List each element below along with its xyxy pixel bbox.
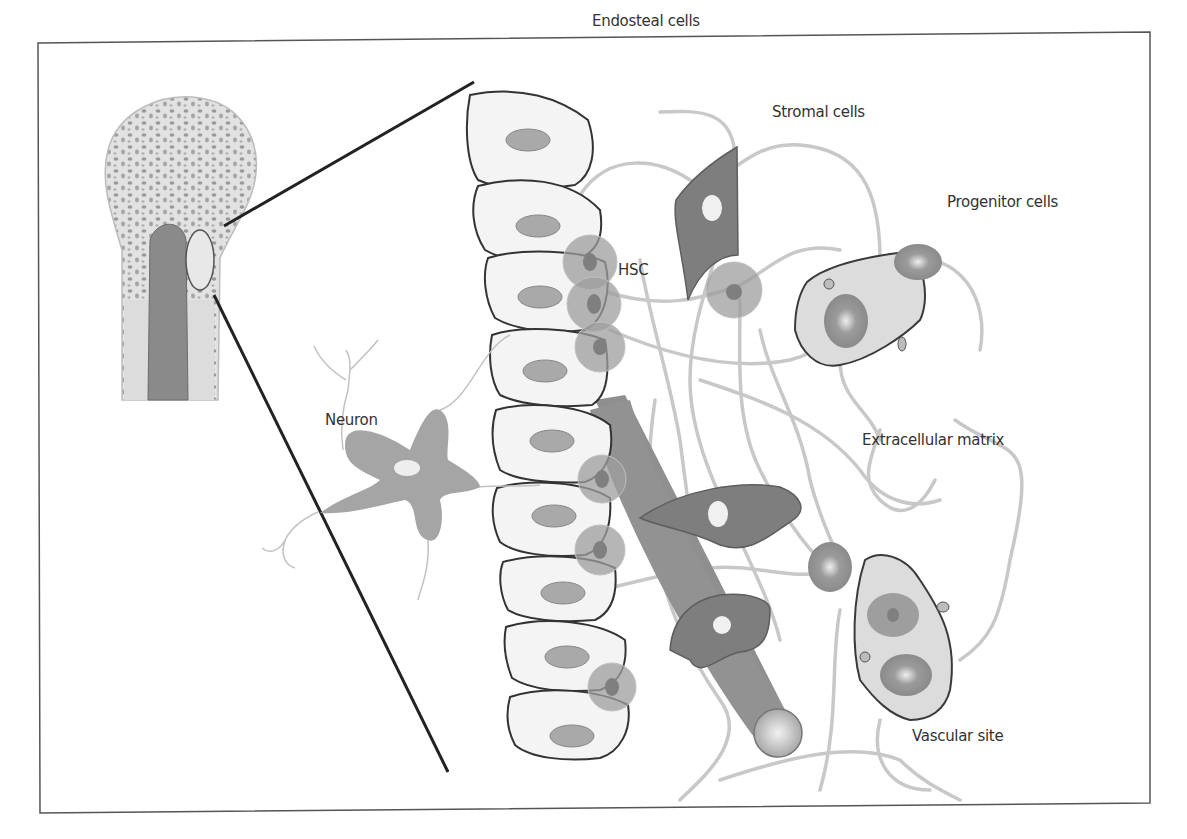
- vascular-site: [808, 542, 952, 720]
- label-stromal-cells: Stromal cells: [772, 103, 865, 121]
- label-progenitor-cells: Progenitor cells: [947, 193, 1058, 211]
- bone-marrow-niche-figure: Endosteal cells Stromal cells Progenitor…: [0, 0, 1187, 839]
- zoom-line-bottom: [214, 295, 448, 772]
- label-extracellular-matrix: Extracellular matrix: [862, 431, 1004, 449]
- bone-illustration: [105, 97, 256, 400]
- label-vascular-site: Vascular site: [912, 727, 1003, 745]
- label-neuron: Neuron: [325, 411, 378, 429]
- zoom-region-ellipse: [186, 230, 214, 290]
- label-hsc: HSC: [618, 261, 648, 279]
- zoom-line-top: [224, 82, 474, 226]
- progenitor-niche: [795, 244, 942, 366]
- label-endosteal-cells: Endosteal cells: [592, 12, 700, 30]
